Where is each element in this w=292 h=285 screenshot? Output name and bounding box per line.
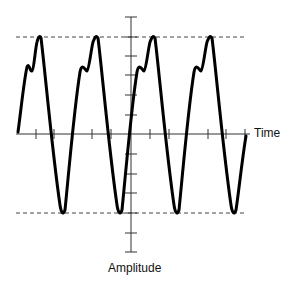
time-axis-label: Time bbox=[254, 126, 280, 140]
waveform-curve bbox=[18, 37, 246, 213]
waveform-diagram bbox=[0, 0, 292, 285]
amplitude-axis-label: Amplitude bbox=[108, 261, 161, 275]
